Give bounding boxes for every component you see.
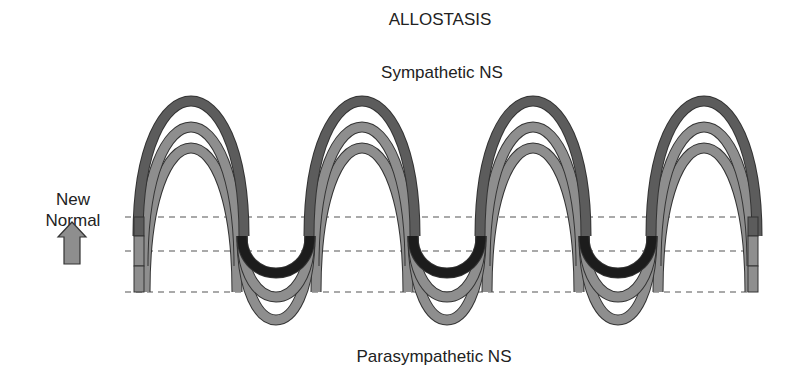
left-end-stub [134, 217, 144, 292]
right-end-stub [748, 217, 758, 292]
trough-arc-inner [413, 236, 481, 273]
trough-arc-inner [242, 236, 310, 273]
diagram-title: ALLOSTASIS [389, 10, 492, 29]
wave-curves [134, 101, 758, 320]
allostasis-diagram: ALLOSTASIS Sympathetic NS Parasympatheti… [0, 0, 788, 387]
sympathetic-label: Sympathetic NS [381, 63, 503, 82]
parasympathetic-label: Parasympathetic NS [357, 347, 512, 366]
trough-arc-inner [584, 236, 652, 273]
new-normal-label-line1: New [56, 190, 91, 209]
